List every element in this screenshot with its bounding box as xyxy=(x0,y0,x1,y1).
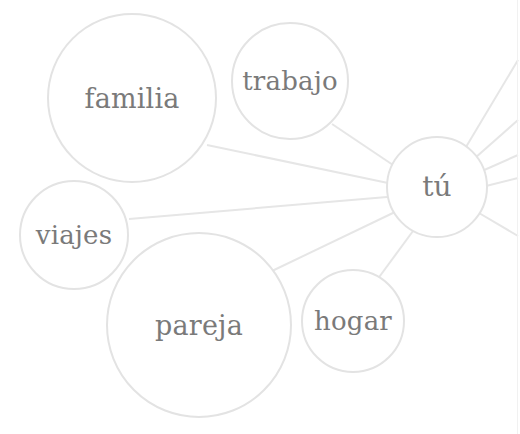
node-hogar-label: hogar xyxy=(314,308,392,334)
node-trabajo-label: trabajo xyxy=(242,68,338,94)
node-viajes-label: viajes xyxy=(36,222,113,248)
node-tu-label: tú xyxy=(422,173,452,201)
right-edge-divider xyxy=(517,0,518,434)
mind-map-canvas: túfamiliatrabajoviajesparejahogar xyxy=(0,0,520,434)
node-pareja-label: pareja xyxy=(155,312,243,339)
node-familia-label: familia xyxy=(84,85,179,112)
